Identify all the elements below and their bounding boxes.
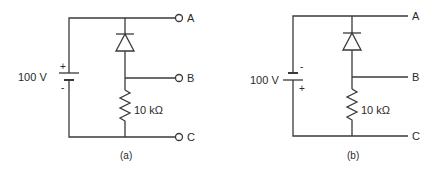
polarity-bottom-a: -: [61, 82, 64, 93]
circuit-diagram: + - 100 V 10 kΩ A B C (a) - + 100 V 10 k…: [0, 0, 439, 176]
terminal-a-icon: [176, 15, 183, 22]
battery-icon: [59, 73, 79, 80]
wire-bottom-left: [293, 80, 408, 136]
terminal-a-label: A: [412, 10, 420, 22]
terminal-b-label: B: [412, 71, 419, 83]
diode-icon: [343, 33, 361, 50]
terminal-c-icon: [176, 134, 183, 141]
resistor-icon: [347, 89, 357, 136]
polarity-top-b: -: [300, 61, 303, 72]
battery-icon: [283, 73, 303, 80]
voltage-label-a: 100 V: [18, 71, 47, 83]
terminal-a-label: A: [187, 12, 195, 24]
terminal-b-icon: [176, 75, 183, 82]
circuit-panel-a: + - 100 V 10 kΩ A B C (a): [18, 12, 195, 161]
caption-a: (a): [120, 150, 132, 161]
terminal-b-label: B: [187, 72, 194, 84]
circuit-panel-b: - + 100 V 10 kΩ A B C (b): [250, 10, 420, 161]
polarity-bottom-b: +: [299, 83, 305, 94]
terminal-c-label: C: [187, 131, 195, 143]
resistor-label-b: 10 kΩ: [361, 104, 390, 116]
wire-top-left: [69, 18, 175, 73]
resistor-label-a: 10 kΩ: [134, 104, 163, 116]
diode-icon: [116, 34, 134, 51]
wire-top-left: [293, 16, 408, 73]
resistor-icon: [120, 90, 130, 137]
polarity-top-a: +: [60, 61, 66, 72]
voltage-label-b: 100 V: [250, 74, 279, 86]
terminal-c-label: C: [412, 130, 420, 142]
caption-b: (b): [347, 150, 359, 161]
